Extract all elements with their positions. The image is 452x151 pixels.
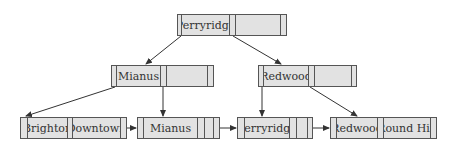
next-pointer-cell bbox=[214, 118, 219, 138]
key-cell bbox=[315, 66, 352, 86]
next-pointer-cell bbox=[431, 118, 436, 138]
key-cell bbox=[167, 66, 208, 86]
key-cell bbox=[297, 118, 308, 138]
leaf-node-perryridge: Perryridge bbox=[237, 117, 313, 139]
leaf-node-mianus: Mianus bbox=[137, 117, 220, 139]
edge-root-to-mianus bbox=[146, 36, 181, 64]
key-cell: Redwood bbox=[337, 118, 378, 138]
pointer-cell bbox=[281, 15, 286, 35]
key-cell: Mianus bbox=[144, 118, 198, 138]
edge-root-to-redwood bbox=[233, 36, 281, 64]
key-cell: Mianus bbox=[117, 66, 161, 86]
root-node: Perryridge bbox=[177, 14, 287, 36]
leaf-node-brighton: Brighton Downtown bbox=[20, 117, 127, 139]
pointer-cell bbox=[21, 118, 28, 138]
leaf-node-redwood: Redwood Round Hill bbox=[330, 117, 437, 139]
edge-mianus-to-brighton-leaf bbox=[26, 87, 115, 116]
key-cell: Brighton bbox=[28, 118, 68, 138]
internal-node-mianus: Mianus bbox=[111, 65, 214, 87]
edge-redwood-to-redwood-leaf bbox=[310, 87, 357, 116]
pointer-cell bbox=[238, 118, 245, 138]
key-cell: Perryridge bbox=[245, 118, 290, 138]
internal-node-redwood: Redwood bbox=[258, 65, 357, 87]
key-cell bbox=[236, 15, 281, 35]
next-pointer-cell bbox=[308, 118, 312, 138]
key-cell: Round Hill bbox=[384, 118, 431, 138]
key-cell: Downtown bbox=[73, 118, 121, 138]
key-cell: Redwood bbox=[264, 66, 309, 86]
pointer-cell bbox=[290, 118, 297, 138]
pointer-cell bbox=[208, 66, 213, 86]
key-cell bbox=[205, 118, 214, 138]
pointer-cell bbox=[352, 66, 356, 86]
next-pointer-cell bbox=[121, 118, 126, 138]
pointer-cell bbox=[198, 118, 205, 138]
key-cell: Perryridge bbox=[182, 15, 230, 35]
